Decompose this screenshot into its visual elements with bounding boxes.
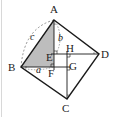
geometry-diagram: A B C D E F G H a b c bbox=[0, 0, 117, 117]
angle-dot-d bbox=[93, 52, 94, 53]
label-side-b: b bbox=[58, 32, 63, 43]
label-g: G bbox=[69, 60, 77, 72]
label-c: C bbox=[62, 102, 69, 114]
label-f: F bbox=[48, 67, 54, 79]
label-d: D bbox=[101, 48, 109, 60]
angle-dot-a bbox=[54, 23, 55, 24]
label-a: A bbox=[50, 3, 58, 15]
label-b: B bbox=[8, 61, 15, 73]
label-side-c: c bbox=[30, 31, 35, 42]
label-h: H bbox=[66, 42, 74, 54]
label-e: E bbox=[46, 51, 53, 63]
angle-dot-c bbox=[67, 94, 68, 95]
angle-dot-b bbox=[25, 66, 26, 67]
label-side-a: a bbox=[36, 64, 41, 75]
